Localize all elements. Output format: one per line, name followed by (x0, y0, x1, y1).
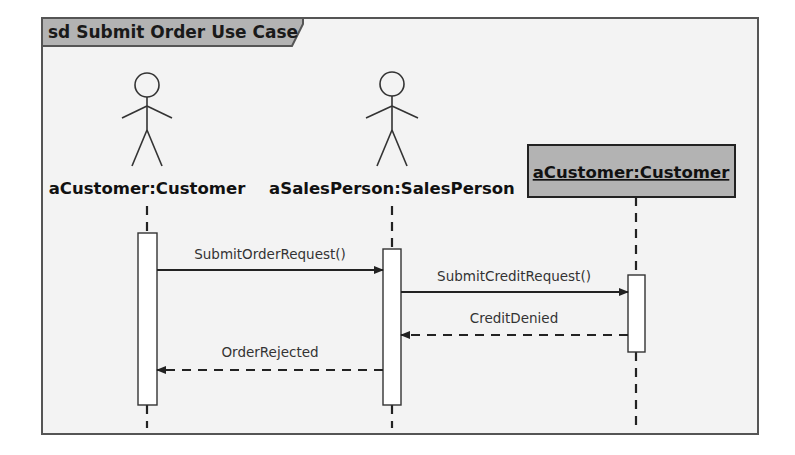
message-label: CreditDenied (470, 310, 558, 326)
frame-title: sd Submit Order Use Case (48, 22, 298, 42)
activation-bar-customer-object (628, 275, 645, 352)
message-label: SubmitOrderRequest() (194, 246, 346, 262)
message-label: OrderRejected (221, 344, 318, 360)
participant-label-salesperson: aSalesPerson:SalesPerson (269, 179, 515, 198)
sequence-diagram: sd Submit Order Use Case aCustomer:Custo… (0, 0, 795, 455)
activation-bar-customer (138, 233, 157, 405)
activation-bar-salesperson (383, 249, 401, 405)
participant-label-customer: aCustomer:Customer (49, 179, 246, 198)
participant-label-customer-object: aCustomer:Customer (533, 163, 730, 182)
message-label: SubmitCreditRequest() (437, 268, 591, 284)
